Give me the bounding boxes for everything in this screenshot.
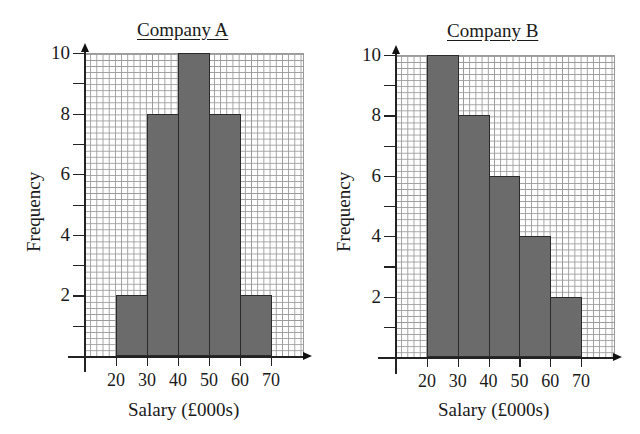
chart-title: Company B (447, 20, 538, 42)
x-tick-label: 30 (443, 371, 473, 392)
histogram-bar (427, 55, 459, 357)
y-tick (384, 327, 396, 328)
y-axis (395, 52, 397, 374)
y-tick-label: 2 (357, 286, 381, 308)
histogram-bar (458, 115, 490, 357)
x-tick-label: 70 (566, 371, 596, 392)
histogram-bar (550, 297, 582, 357)
x-tick-label: 40 (474, 371, 504, 392)
y-tick (384, 85, 396, 86)
y-tick-label: 10 (357, 44, 381, 66)
y-tick (384, 206, 396, 207)
y-tick (384, 266, 396, 267)
x-tick (427, 357, 428, 367)
y-axis-title: Frequency (333, 172, 355, 252)
x-axis-title: Salary (£000s) (438, 399, 549, 421)
y-tick (384, 297, 396, 298)
x-tick-label: 50 (504, 371, 534, 392)
histogram-company-b: Company B 246810 203040506070 Frequency … (0, 0, 320, 434)
y-axis-arrow-icon (392, 45, 400, 54)
y-tick-label: 8 (357, 104, 381, 126)
y-tick-label: 6 (357, 165, 381, 187)
x-axis-arrow-icon (613, 353, 622, 361)
y-tick (384, 176, 396, 177)
y-tick (384, 146, 396, 147)
x-tick (519, 357, 520, 367)
x-tick-label: 20 (412, 371, 442, 392)
y-tick (384, 236, 396, 237)
x-tick (489, 357, 490, 367)
x-tick-label: 60 (535, 371, 565, 392)
histogram-bar (519, 236, 551, 357)
y-tick (384, 115, 396, 116)
x-tick (550, 357, 551, 367)
y-tick (384, 55, 396, 56)
x-tick (458, 357, 459, 367)
y-tick-label: 4 (357, 225, 381, 247)
histogram-bar (489, 176, 521, 357)
x-tick (581, 357, 582, 367)
